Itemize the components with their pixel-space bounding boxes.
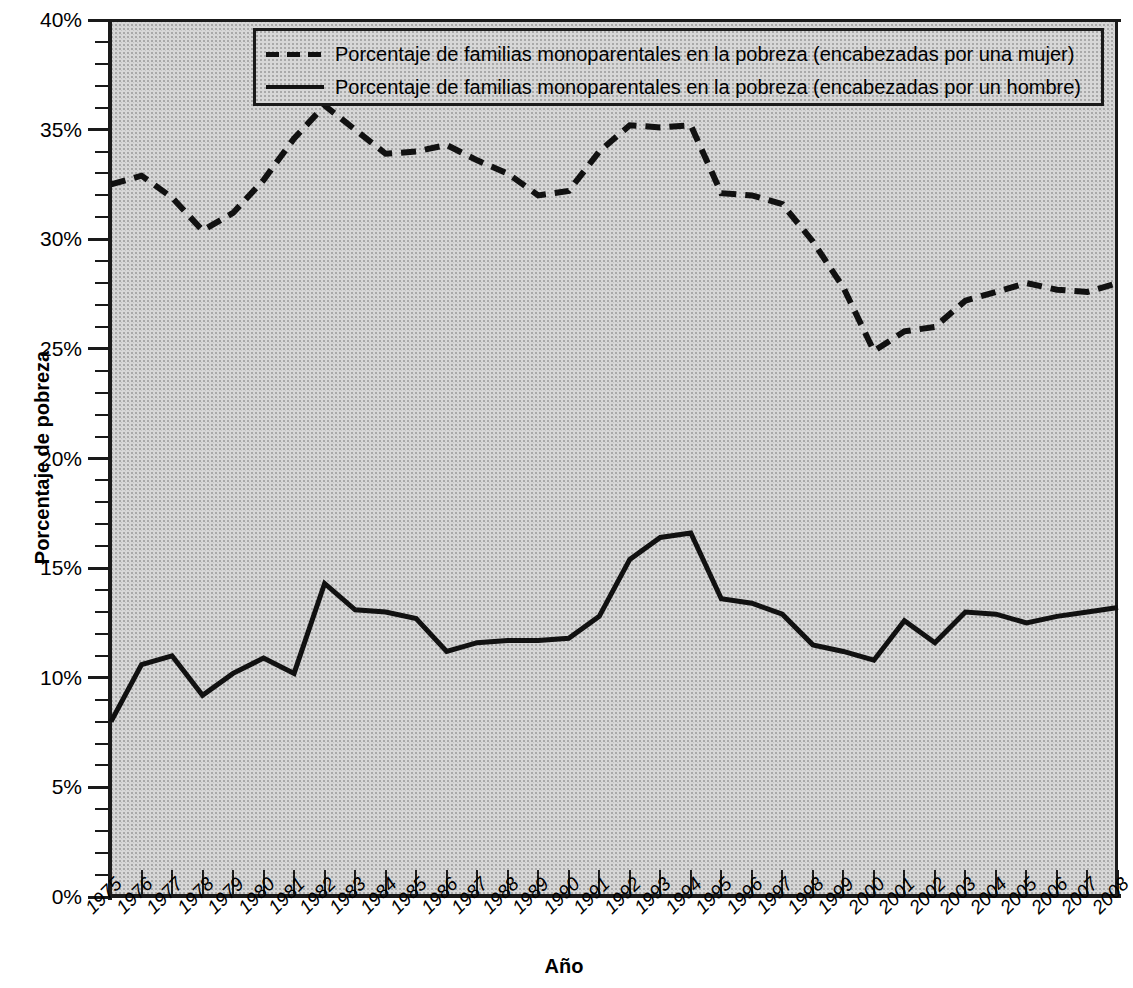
y-axis-title: Porcentaje de pobreza bbox=[31, 328, 54, 588]
y-tick-minor bbox=[95, 194, 109, 196]
y-tick-minor bbox=[95, 63, 109, 65]
legend-label-male: Porcentaje de familias monoparentales en… bbox=[335, 77, 1081, 97]
y-tick-minor bbox=[95, 764, 109, 766]
x-axis-title: Año bbox=[0, 955, 1128, 978]
y-tick-minor bbox=[95, 216, 109, 218]
y-tick-minor bbox=[95, 611, 109, 613]
y-tick-minor bbox=[95, 41, 109, 43]
y-axis-label: 40% bbox=[40, 8, 82, 32]
y-tick-major bbox=[88, 676, 109, 679]
y-axis-label: 5% bbox=[52, 775, 82, 799]
dashed-line-swatch bbox=[266, 47, 324, 61]
legend-item-female: Porcentaje de familias monoparentales en… bbox=[266, 37, 1093, 70]
y-tick-minor bbox=[95, 370, 109, 372]
y-tick-minor bbox=[95, 392, 109, 394]
y-axis-label: 0% bbox=[52, 885, 82, 909]
y-tick-minor bbox=[95, 743, 109, 745]
y-tick-minor bbox=[95, 830, 109, 832]
y-tick-minor bbox=[95, 282, 109, 284]
y-tick-minor bbox=[95, 699, 109, 701]
y-tick-major bbox=[88, 567, 109, 570]
legend: Porcentaje de familias monoparentales en… bbox=[253, 28, 1104, 106]
y-tick-minor bbox=[95, 545, 109, 547]
y-tick-minor bbox=[95, 501, 109, 503]
y-tick-major bbox=[88, 347, 109, 350]
y-tick-minor bbox=[95, 85, 109, 87]
solid-line-swatch bbox=[266, 80, 324, 94]
y-tick-minor bbox=[95, 633, 109, 635]
legend-item-male: Porcentaje de familias monoparentales en… bbox=[266, 70, 1093, 103]
y-tick-minor bbox=[95, 852, 109, 854]
y-tick-minor bbox=[95, 107, 109, 109]
series-plot bbox=[111, 20, 1118, 897]
series-line-female bbox=[111, 106, 1118, 352]
y-tick-major bbox=[88, 19, 109, 22]
y-tick-minor bbox=[95, 655, 109, 657]
y-tick-minor bbox=[95, 304, 109, 306]
y-tick-minor bbox=[95, 589, 109, 591]
y-tick-minor bbox=[95, 479, 109, 481]
y-axis-label: 30% bbox=[40, 227, 82, 251]
y-tick-minor bbox=[95, 326, 109, 328]
y-tick-minor bbox=[95, 523, 109, 525]
y-tick-minor bbox=[95, 172, 109, 174]
y-tick-minor bbox=[95, 436, 109, 438]
y-tick-major bbox=[88, 238, 109, 241]
y-tick-major bbox=[88, 128, 109, 131]
y-tick-minor bbox=[95, 414, 109, 416]
y-tick-minor bbox=[95, 151, 109, 153]
y-tick-major bbox=[88, 786, 109, 789]
legend-label-female: Porcentaje de familias monoparentales en… bbox=[335, 44, 1074, 64]
y-tick-minor bbox=[95, 721, 109, 723]
y-tick-major bbox=[88, 457, 109, 460]
y-tick-minor bbox=[95, 808, 109, 810]
series-line-male bbox=[111, 533, 1118, 722]
y-tick-minor bbox=[95, 260, 109, 262]
y-axis-label: 35% bbox=[40, 118, 82, 142]
y-axis-label: 10% bbox=[40, 666, 82, 690]
